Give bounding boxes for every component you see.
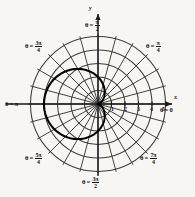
angle-label-theta-5pi-4: θ = 5π4 — [25, 152, 42, 165]
x-axis-label: x — [174, 94, 177, 100]
angle-label-prefix: θ = — [25, 42, 35, 49]
angle-label-theta-3pi-4: θ = 3π4 — [25, 40, 42, 53]
angle-label-theta-7pi-4: θ = 7π4 — [140, 152, 157, 165]
angle-label-fraction: 3π2 — [92, 176, 100, 189]
fraction-denominator: 4 — [150, 158, 158, 165]
angle-label-value: π — [15, 100, 18, 107]
polar-plot-figure: θ = 0θ = π4θ = π2θ = 3π4θ = πθ = 5π4θ = … — [0, 0, 195, 197]
fraction-numerator: 3π — [35, 40, 43, 46]
fraction-numerator: π — [156, 40, 161, 46]
angle-label-fraction: 5π4 — [35, 152, 43, 165]
fraction-denominator: 4 — [35, 46, 43, 53]
radial-tick-label-4: 4 — [150, 106, 153, 112]
angle-label-prefix: θ = — [25, 154, 35, 161]
angle-label-fraction: π2 — [95, 19, 100, 32]
angle-label-prefix: θ = — [5, 100, 15, 107]
angle-label-prefix: θ = — [146, 42, 156, 49]
radial-tick-label-1: 1 — [111, 106, 114, 112]
fraction-denominator: 2 — [95, 25, 100, 32]
fraction-denominator: 4 — [35, 158, 43, 165]
angle-label-value: 0 — [170, 106, 173, 113]
fraction-denominator: 4 — [156, 46, 161, 53]
angle-label-prefix: θ = — [140, 154, 150, 161]
angle-label-theta-pi-4: θ = π4 — [146, 40, 161, 53]
angle-label-prefix: θ = — [82, 178, 92, 185]
fraction-numerator: 3π — [92, 176, 100, 182]
fraction-numerator: 5π — [35, 152, 43, 158]
angle-label-fraction: 3π4 — [35, 40, 43, 53]
angle-label-prefix: θ = — [85, 21, 95, 28]
radial-tick-label-5: 5 — [162, 106, 165, 112]
fraction-numerator: π — [95, 19, 100, 25]
angle-label-theta-3pi-2: θ = 3π2 — [82, 176, 99, 189]
angle-label-theta-pi-2: θ = π2 — [85, 19, 100, 32]
fraction-denominator: 2 — [92, 182, 100, 189]
angle-label-fraction: 7π4 — [150, 152, 158, 165]
fraction-numerator: 7π — [150, 152, 158, 158]
radial-tick-label-3: 3 — [137, 106, 140, 112]
radial-tick-label-2: 2 — [124, 106, 127, 112]
angle-label-theta-pi: θ = π — [5, 101, 18, 108]
y-axis-label: y — [89, 5, 92, 11]
angle-label-fraction: π4 — [156, 40, 161, 53]
